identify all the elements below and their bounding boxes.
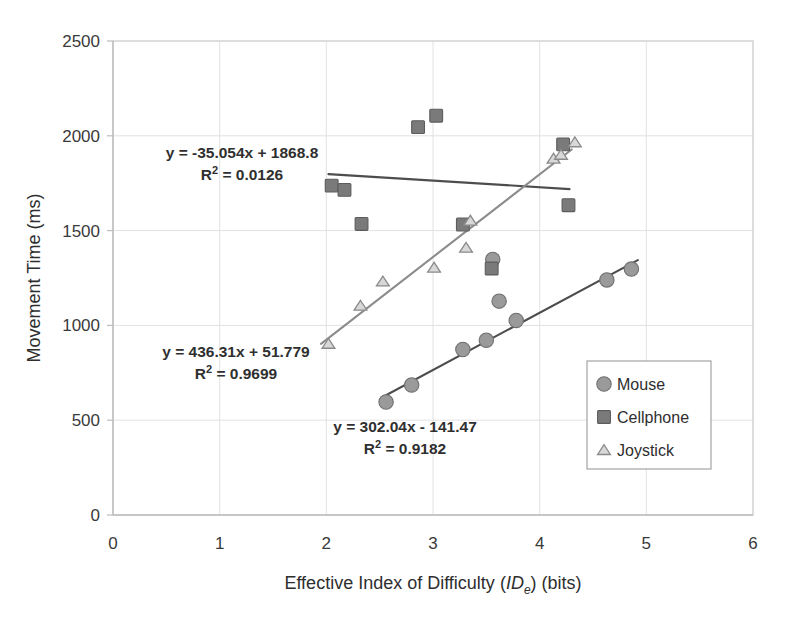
chart-figure: 05001000150020002500 0123456 y = -35.054… <box>0 0 798 617</box>
x-tick-label: 4 <box>535 534 544 553</box>
data-point-cellphone <box>430 109 443 122</box>
data-point-mouse <box>479 333 493 347</box>
data-point-cellphone <box>562 199 575 212</box>
legend-label: Cellphone <box>617 409 689 426</box>
x-tick-label: 2 <box>322 534 331 553</box>
x-tick-labels: 0123456 <box>108 534 757 553</box>
data-point-mouse <box>600 273 614 287</box>
y-tick-labels: 05001000150020002500 <box>62 32 113 525</box>
data-point-cellphone <box>338 183 351 196</box>
data-point-mouse <box>456 342 470 356</box>
data-point-cellphone <box>355 218 368 231</box>
data-point-mouse <box>624 262 638 276</box>
annotation-equation: y = 436.31x + 51.779 <box>162 343 310 360</box>
legend-label: Joystick <box>617 442 675 459</box>
data-point-cellphone <box>485 262 498 275</box>
x-tick-label: 5 <box>642 534 651 553</box>
scatter-plot: 05001000150020002500 0123456 y = -35.054… <box>0 0 798 617</box>
x-tick-label: 0 <box>108 534 117 553</box>
y-tick-label: 0 <box>91 506 100 525</box>
annotation-equation: y = 302.04x - 141.47 <box>333 418 477 435</box>
data-point-cellphone <box>325 179 338 192</box>
data-point-mouse <box>379 395 393 409</box>
y-tick-label: 2000 <box>62 127 100 146</box>
data-point-mouse <box>509 313 523 327</box>
y-axis-title: Movement Time (ms) <box>24 193 44 362</box>
legend[interactable]: MouseCellphoneJoystick <box>587 361 711 469</box>
legend-item-mouse[interactable]: Mouse <box>597 376 665 393</box>
x-tick-label: 6 <box>748 534 757 553</box>
y-tick-label: 2500 <box>62 32 100 51</box>
data-point-cellphone <box>557 138 570 151</box>
x-tick-label: 1 <box>215 534 224 553</box>
data-point-mouse <box>492 294 506 308</box>
y-tick-label: 500 <box>72 411 100 430</box>
y-tick-label: 1500 <box>62 222 100 241</box>
data-point-cellphone <box>412 121 425 134</box>
legend-marker-circle <box>597 377 611 391</box>
annotation-equation: y = -35.054x + 1868.8 <box>166 144 319 161</box>
legend-label: Mouse <box>617 376 665 393</box>
x-tick-label: 3 <box>428 534 437 553</box>
x-axis-title: Effective Index of Difficulty (IDe) (bit… <box>284 573 581 597</box>
legend-marker-square <box>598 411 611 424</box>
y-tick-label: 1000 <box>62 316 100 335</box>
data-point-mouse <box>404 378 418 392</box>
